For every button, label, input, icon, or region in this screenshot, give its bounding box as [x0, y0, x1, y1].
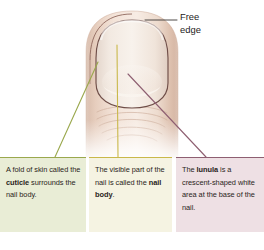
label-free-edge: Free edge [180, 11, 201, 36]
callout-lunula-text: The lunula is a crescent-shaped white ar… [182, 165, 255, 212]
callout-lunula: The lunula is a crescent-shaped white ar… [176, 157, 264, 232]
nail-anatomy-figure: Free edge A fold of skin called the cuti… [0, 0, 264, 250]
callout-cuticle: A fold of skin called the cuticle surrou… [0, 157, 86, 232]
callout-cuticle-text: A fold of skin called the cuticle surrou… [6, 165, 80, 199]
callout-nail-body: The visible part of the nail is called t… [89, 157, 172, 232]
callout-nail-body-text: The visible part of the nail is called t… [95, 165, 165, 199]
